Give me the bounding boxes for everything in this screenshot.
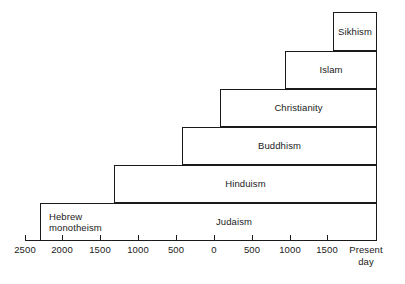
timeline-bar-label-hinduism: Hinduism [225, 178, 265, 189]
x-axis-label-0: 0 [211, 244, 216, 255]
timeline-bar-buddhism: Buddhism [182, 127, 377, 165]
x-axis-label-2500bce: 2500 [14, 244, 36, 255]
x-axis-line [25, 240, 376, 241]
x-axis-label-1500bce: 1500 [89, 244, 111, 255]
x-axis-tick-1500bce [100, 235, 101, 240]
timeline-bar-label-buddhism: Buddhism [258, 140, 301, 151]
timeline-bar-label-christianity: Christianity [274, 102, 322, 113]
x-axis-label-day: day [349, 256, 382, 268]
x-axis-label-500bce: 500 [168, 244, 184, 255]
x-axis-label-present: Present [349, 244, 382, 256]
x-axis-tick-500ce [252, 235, 253, 240]
x-axis-tick-2000bce [62, 235, 63, 240]
x-axis-tick-2500bce [25, 235, 26, 240]
timeline-bar-label-islam: Islam [319, 64, 342, 75]
timeline-bar-christianity: Christianity [220, 89, 377, 127]
x-axis-tick-500bce [176, 235, 177, 240]
x-axis-tick-1500ce [327, 235, 328, 240]
x-axis-label-1000bce: 1000 [127, 244, 149, 255]
timeline-bar-hinduism: Hinduism [114, 165, 377, 203]
x-axis-tick-1000bce [138, 235, 139, 240]
religion-timeline-chart: Sikhism Islam Christianity Buddhism Hind… [0, 0, 405, 284]
x-axis-label-500ce: 500 [244, 244, 260, 255]
timeline-bar-label-hebrew-monotheism: Hebrew monotheism [49, 211, 129, 233]
x-axis-label-present-day: Present day [349, 244, 382, 267]
timeline-bar-label-sikhism: Sikhism [338, 26, 372, 37]
x-axis-label-2000bce: 2000 [51, 244, 73, 255]
x-axis-label-1000ce: 1000 [279, 244, 301, 255]
timeline-bar-label-judaism: Judaism [216, 216, 252, 227]
x-axis-label-1500ce: 1500 [316, 244, 338, 255]
x-axis-tick-0 [214, 235, 215, 240]
timeline-bar-sikhism: Sikhism [333, 12, 377, 51]
timeline-bar-islam: Islam [285, 51, 377, 89]
x-axis-tick-1000ce [290, 235, 291, 240]
